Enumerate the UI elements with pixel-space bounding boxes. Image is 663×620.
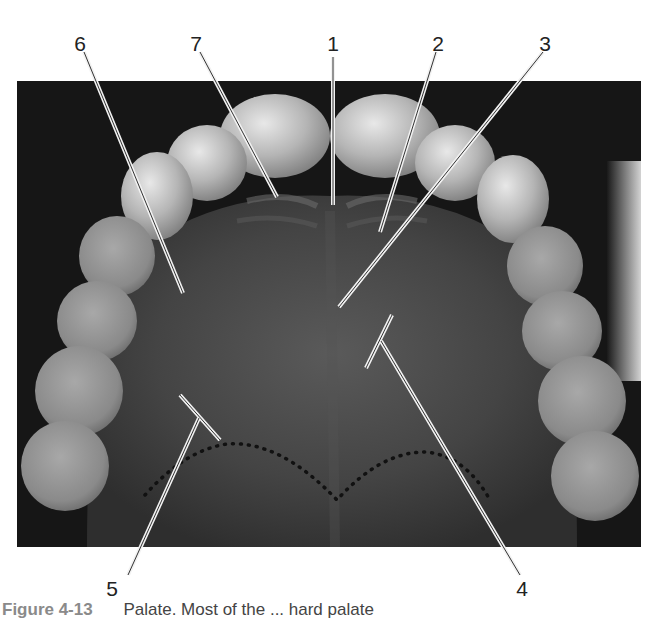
label-6: 6 xyxy=(74,33,86,54)
palate-photograph xyxy=(17,81,641,547)
label-3: 3 xyxy=(539,33,551,54)
figure-caption: Figure 4-13 Palate. Most of the ... hard… xyxy=(2,600,374,620)
label-5: 5 xyxy=(106,578,118,599)
figure-number: Figure 4-13 xyxy=(2,600,93,619)
caption-text: Palate. Most of the ... hard palate xyxy=(123,600,373,619)
label-4: 4 xyxy=(516,578,528,599)
label-1: 1 xyxy=(327,33,339,54)
label-7: 7 xyxy=(190,33,202,54)
label-2: 2 xyxy=(432,33,444,54)
